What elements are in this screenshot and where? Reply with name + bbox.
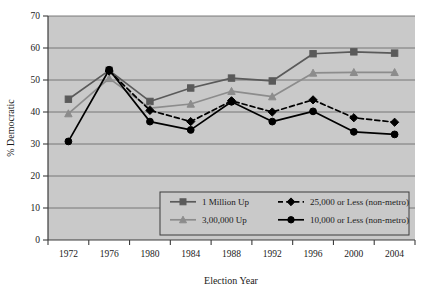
chart-legend: 1 Million Up25,000 or Less (non-metro)3,… xyxy=(160,192,409,235)
square-marker-icon xyxy=(188,85,194,91)
x-tick-label: 1984 xyxy=(181,249,200,259)
y-tick-label: 0 xyxy=(35,235,40,245)
x-tick-label: 1980 xyxy=(140,249,159,259)
square-marker-icon xyxy=(228,75,234,81)
y-axis-tick-marks xyxy=(43,16,48,240)
legend-label: 1 Million Up xyxy=(202,197,250,207)
square-marker-icon xyxy=(269,78,275,84)
square-marker-icon xyxy=(351,49,357,55)
circle-marker-icon xyxy=(310,108,317,115)
circle-marker-icon xyxy=(106,66,113,73)
x-tick-label: 1992 xyxy=(263,249,282,259)
circle-marker-icon xyxy=(147,118,154,125)
x-tick-label: 1988 xyxy=(222,249,241,259)
circle-marker-icon xyxy=(187,127,194,134)
legend-label: 25,000 or Less (non-metro) xyxy=(310,197,409,207)
y-tick-label: 20 xyxy=(31,171,41,181)
y-axis-tick-labels: 010203040506070 xyxy=(31,11,41,245)
y-tick-label: 10 xyxy=(31,203,41,213)
legend-label: 3,00,000 Up xyxy=(202,215,247,225)
y-tick-label: 30 xyxy=(31,139,41,149)
x-tick-label: 2004 xyxy=(385,249,404,259)
line-chart: 010203040506070 197219761980198419881992… xyxy=(0,0,429,291)
square-marker-icon xyxy=(310,51,316,57)
x-axis-title: Election Year xyxy=(204,275,259,286)
square-marker-icon xyxy=(65,96,71,102)
x-axis-tick-marks xyxy=(48,240,415,245)
chart-container: 010203040506070 197219761980198419881992… xyxy=(0,0,429,291)
y-tick-label: 40 xyxy=(31,107,41,117)
y-tick-label: 70 xyxy=(31,11,41,21)
square-marker-icon xyxy=(180,199,186,205)
circle-marker-icon xyxy=(65,138,72,145)
x-axis-tick-labels: 197219761980198419881992199620002004 xyxy=(59,249,404,259)
x-tick-label: 1972 xyxy=(59,249,78,259)
x-tick-label: 1996 xyxy=(304,249,323,259)
legend-label: 10,000 or Less (non-metro) xyxy=(310,215,409,225)
y-axis-title: % Democratic xyxy=(5,99,16,157)
circle-marker-icon xyxy=(350,128,357,135)
x-tick-label: 2000 xyxy=(344,249,363,259)
y-tick-label: 60 xyxy=(31,43,41,53)
circle-marker-icon xyxy=(228,98,235,105)
circle-marker-icon xyxy=(288,217,294,223)
y-tick-label: 50 xyxy=(31,75,41,85)
square-marker-icon xyxy=(391,50,397,56)
x-tick-label: 1976 xyxy=(100,249,119,259)
circle-marker-icon xyxy=(391,131,398,138)
circle-marker-icon xyxy=(269,118,276,125)
